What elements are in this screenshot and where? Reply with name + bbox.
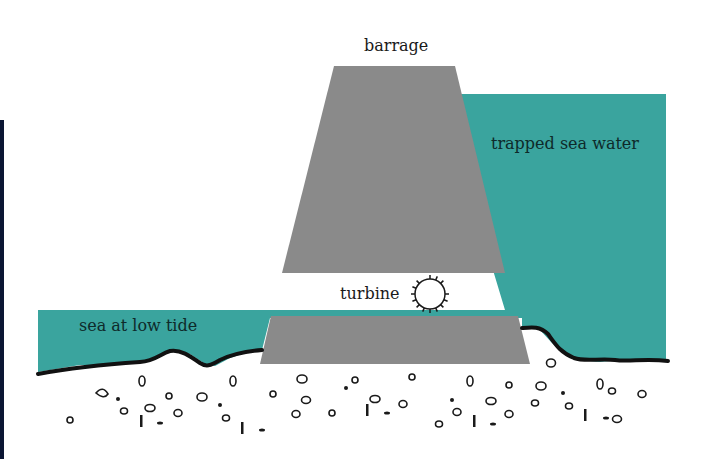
- turbine-icon: [411, 275, 449, 313]
- sea-at-low-tide-label: sea at low tide: [79, 316, 197, 335]
- turbine-label: turbine: [340, 284, 400, 303]
- seabed-pebbles: [67, 359, 646, 427]
- barrage-label: barrage: [364, 36, 428, 55]
- trapped-sea-water-label: trapped sea water: [491, 134, 639, 153]
- tidal-barrage-diagram: barrage trapped sea water turbine sea at…: [0, 0, 704, 459]
- barrage-lower-block: [260, 316, 530, 364]
- seabed-grit: [116, 386, 609, 434]
- left-edge-bar: [0, 120, 4, 459]
